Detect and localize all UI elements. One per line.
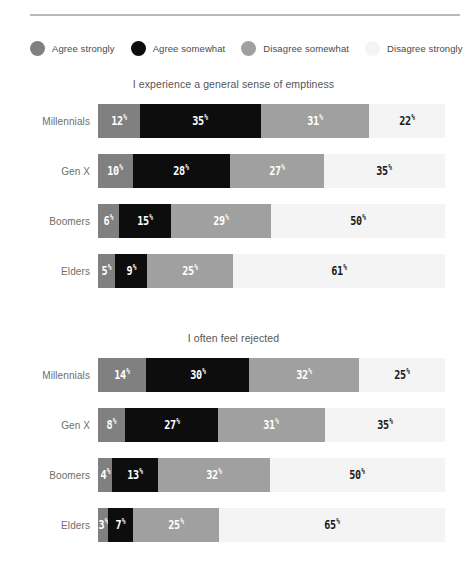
legend-item: Disagree somewhat xyxy=(241,41,349,56)
stacked-bar: 10%28%27%35% xyxy=(98,154,445,188)
row-category-label: Elders xyxy=(0,508,90,542)
percent-sign: % xyxy=(281,163,285,172)
chart-row: Gen X8%27%31%35% xyxy=(0,408,467,458)
stacked-bar: 3%7%25%65% xyxy=(98,508,445,542)
legend-swatch-icon xyxy=(30,41,45,56)
percent-sign: % xyxy=(319,113,323,122)
chart-row: Boomers6%15%29%50% xyxy=(0,204,467,254)
bar-segment: 25% xyxy=(147,254,234,288)
bar-segment-value: 61% xyxy=(331,264,347,277)
row-category-label: Boomers xyxy=(0,458,90,492)
percent-sign: % xyxy=(105,517,109,526)
percent-sign: % xyxy=(176,417,180,426)
bar-segment: 50% xyxy=(271,204,445,238)
chart-emptiness: I experience a general sense of emptines… xyxy=(0,78,467,304)
percent-sign: % xyxy=(108,263,112,272)
bar-segment: 22% xyxy=(369,104,445,138)
bar-segment-value: 27% xyxy=(164,418,180,431)
bar-segment: 61% xyxy=(233,254,445,288)
chart-title: I often feel rejected xyxy=(0,332,467,344)
bar-segment: 31% xyxy=(218,408,325,442)
legend-swatch-icon xyxy=(131,41,146,56)
bar-segment: 13% xyxy=(112,458,158,492)
bar-segment: 35% xyxy=(325,408,445,442)
chart-row: Boomers4%13%32%50% xyxy=(0,458,467,508)
bar-segment: 8% xyxy=(98,408,125,442)
stacked-bar: 6%15%29%50% xyxy=(98,204,445,238)
bar-segment: 6% xyxy=(98,204,119,238)
bar-segment-value: 12% xyxy=(111,114,127,127)
chart-row: Gen X10%28%27%35% xyxy=(0,154,467,204)
percent-sign: % xyxy=(122,517,126,526)
bar-segment-value: 7% xyxy=(116,518,126,531)
bar-segment-value: 4% xyxy=(100,468,110,481)
chart-row: Elders3%7%25%65% xyxy=(0,508,467,558)
bar-segment-value: 8% xyxy=(107,418,117,431)
bar-segment: 12% xyxy=(98,104,140,138)
legend-label: Agree strongly xyxy=(52,43,115,54)
bar-segment: 9% xyxy=(115,254,146,288)
row-category-label: Boomers xyxy=(0,204,90,238)
bar-segment: 65% xyxy=(219,508,445,542)
chart-page: Agree stronglyAgree somewhatDisagree som… xyxy=(0,0,467,583)
bar-segment-value: 32% xyxy=(296,368,312,381)
chart-title: I experience a general sense of emptines… xyxy=(0,78,467,90)
percent-sign: % xyxy=(202,367,206,376)
percent-sign: % xyxy=(337,517,341,526)
bar-segment-value: 22% xyxy=(399,114,415,127)
stacked-bar: 8%27%31%35% xyxy=(98,408,445,442)
bar-segment: 10% xyxy=(98,154,133,188)
percent-sign: % xyxy=(411,113,415,122)
bar-segment-value: 28% xyxy=(173,164,189,177)
bar-segment-value: 13% xyxy=(127,468,143,481)
percent-sign: % xyxy=(363,213,367,222)
legend-label: Disagree strongly xyxy=(387,43,463,54)
chart-row: Millennials14%30%32%25% xyxy=(0,358,467,408)
bar-segment-value: 50% xyxy=(350,468,366,481)
bar-segment-value: 29% xyxy=(213,214,229,227)
bar-segment: 50% xyxy=(270,458,445,492)
bar-segment: 30% xyxy=(146,358,249,392)
bar-segment: 27% xyxy=(125,408,218,442)
chart-row: Elders5%9%25%61% xyxy=(0,254,467,304)
percent-sign: % xyxy=(126,367,130,376)
row-category-label: Millennials xyxy=(0,104,90,138)
percent-sign: % xyxy=(149,213,153,222)
bar-segment-value: 31% xyxy=(307,114,323,127)
bar-segment-value: 25% xyxy=(168,518,184,531)
bar-segment-value: 14% xyxy=(114,368,130,381)
bar-segment: 28% xyxy=(133,154,230,188)
bar-segment: 32% xyxy=(249,358,359,392)
percent-sign: % xyxy=(123,113,127,122)
percent-sign: % xyxy=(106,467,110,476)
percent-sign: % xyxy=(139,467,143,476)
stacked-bar: 12%35%31%22% xyxy=(98,104,445,138)
bar-segment: 32% xyxy=(158,458,270,492)
bar-segment: 35% xyxy=(140,104,261,138)
chart-rows: Millennials14%30%32%25%Gen X8%27%31%35%B… xyxy=(0,358,467,558)
bar-segment: 31% xyxy=(261,104,369,138)
bar-segment: 25% xyxy=(359,358,445,392)
row-category-label: Millennials xyxy=(0,358,90,392)
percent-sign: % xyxy=(186,163,190,172)
bar-segment-value: 3% xyxy=(98,518,108,531)
percent-sign: % xyxy=(132,263,136,272)
legend-item: Disagree strongly xyxy=(365,41,463,56)
legend-label: Disagree somewhat xyxy=(263,43,349,54)
row-category-label: Elders xyxy=(0,254,90,288)
bar-segment: 4% xyxy=(98,458,112,492)
percent-sign: % xyxy=(120,163,124,172)
percent-sign: % xyxy=(180,517,184,526)
legend-swatch-icon xyxy=(241,41,256,56)
percent-sign: % xyxy=(389,417,393,426)
bar-segment-value: 35% xyxy=(376,164,392,177)
chart-row: Millennials12%35%31%22% xyxy=(0,104,467,154)
chart-rows: Millennials12%35%31%22%Gen X10%28%27%35%… xyxy=(0,104,467,304)
bar-segment: 5% xyxy=(98,254,115,288)
bar-segment-value: 32% xyxy=(206,468,222,481)
percent-sign: % xyxy=(308,367,312,376)
bar-segment-value: 35% xyxy=(193,114,209,127)
bar-segment: 25% xyxy=(133,508,220,542)
bar-segment: 35% xyxy=(324,154,445,188)
bar-segment-value: 35% xyxy=(377,418,393,431)
